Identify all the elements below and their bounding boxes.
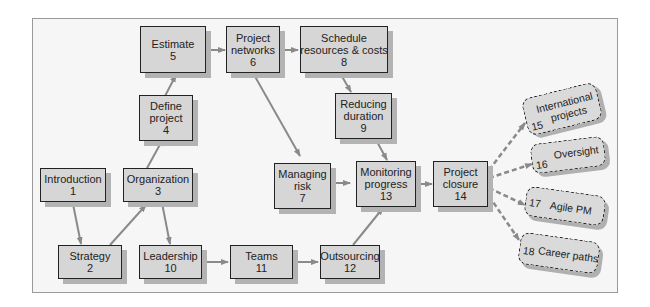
node-organization: Organization 3 xyxy=(123,168,193,202)
node-label: Introduction xyxy=(44,173,101,185)
node-label: Strategy xyxy=(70,250,111,262)
node-strategy: Strategy 2 xyxy=(58,245,122,279)
node-project-closure: Project closure 14 xyxy=(433,161,488,207)
node-number: 9 xyxy=(360,122,366,134)
node-estimate: Estimate 5 xyxy=(140,26,206,73)
node-schedule-resources-costs: Schedule resources & costs 8 xyxy=(300,26,388,73)
node-number: 7 xyxy=(299,192,305,204)
node-leadership: Leadership 10 xyxy=(139,245,202,279)
topic-number: 18 xyxy=(522,244,535,258)
node-monitoring-progress: Monitoring progress 13 xyxy=(356,161,416,207)
node-label: Leadership xyxy=(143,250,197,262)
topic-number: 17 xyxy=(528,196,541,210)
node-number: 1 xyxy=(70,185,76,197)
node-number: 14 xyxy=(454,190,466,202)
node-label: Teams xyxy=(245,250,277,262)
node-number: 2 xyxy=(87,262,93,274)
node-managing-risk: Managing risk 7 xyxy=(274,163,331,209)
node-label-2: networks xyxy=(231,44,275,56)
node-number: 13 xyxy=(380,190,392,202)
node-number: 3 xyxy=(155,185,161,197)
topic-label: Oversight xyxy=(553,143,599,160)
node-project-networks: Project networks 6 xyxy=(226,26,280,73)
topic-number: 15 xyxy=(530,118,544,132)
node-label: Reducing xyxy=(340,98,386,110)
node-label-2: risk xyxy=(294,180,311,192)
node-number: 12 xyxy=(344,262,356,274)
node-introduction: Introduction 1 xyxy=(40,168,106,202)
topic-number: 16 xyxy=(535,158,548,171)
node-label-2: resources & costs xyxy=(300,44,387,56)
topic-label: Career paths xyxy=(537,244,599,264)
node-number: 10 xyxy=(164,262,176,274)
node-label: Project xyxy=(236,32,270,44)
node-label-2: closure xyxy=(443,178,478,190)
node-outsourcing: Outsourcing 12 xyxy=(320,245,380,279)
node-reducing-duration: Reducing duration 9 xyxy=(335,93,392,139)
node-label: Estimate xyxy=(152,38,195,50)
node-label: Monitoring xyxy=(360,166,411,178)
node-label-2: progress xyxy=(365,178,408,190)
node-label-2: project xyxy=(149,112,182,124)
node-label: Organization xyxy=(127,173,189,185)
topic-label: Agile PM xyxy=(549,199,592,217)
node-label: Managing xyxy=(278,168,326,180)
node-label: Define xyxy=(150,100,182,112)
node-label: Schedule xyxy=(321,32,367,44)
node-number: 4 xyxy=(163,124,169,136)
node-number: 6 xyxy=(250,56,256,68)
node-define-project: Define project 4 xyxy=(139,95,193,141)
node-number: 8 xyxy=(341,56,347,68)
node-label: Project xyxy=(443,166,477,178)
node-number: 11 xyxy=(256,262,267,274)
node-label-2: duration xyxy=(344,110,384,122)
node-teams: Teams 11 xyxy=(230,245,293,279)
node-label: Outsourcing xyxy=(320,250,379,262)
node-number: 5 xyxy=(170,50,176,62)
